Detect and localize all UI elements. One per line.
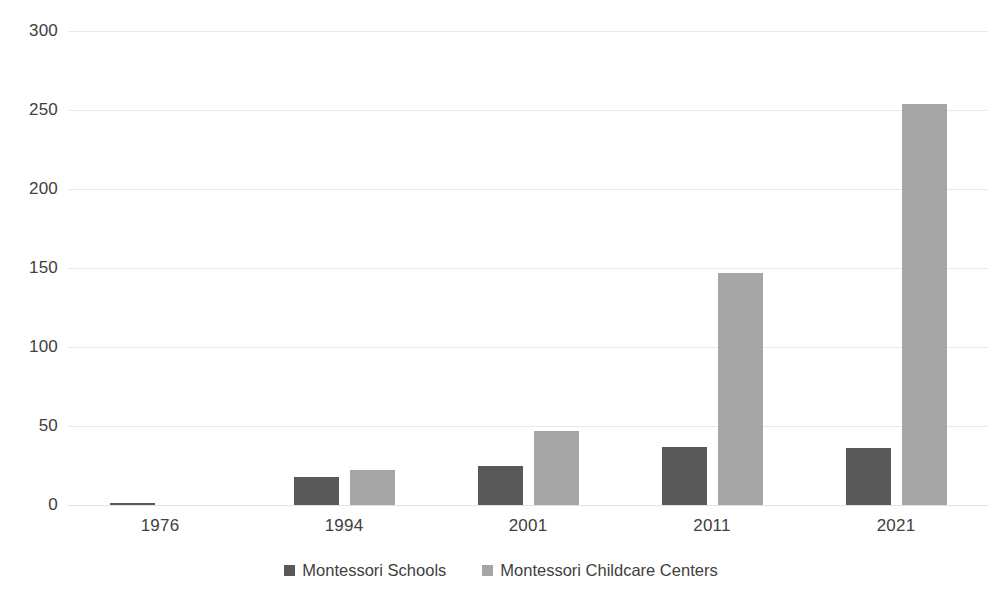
x-axis-tick-label-1994: 1994: [252, 516, 436, 536]
bar-group: [620, 31, 804, 505]
bar-2001-series-1[interactable]: [534, 431, 579, 505]
bar-1994-series-0[interactable]: [294, 477, 339, 505]
bar-group-bars: [252, 31, 436, 505]
bar-group: [252, 31, 436, 505]
gridline-0: [68, 505, 988, 506]
bar-group-bars: [620, 31, 804, 505]
legend-item-0[interactable]: Montessori Schools: [284, 562, 446, 579]
x-axis-labels: 19761994200120112021: [68, 516, 988, 546]
y-axis-tick-label: 300: [0, 21, 58, 41]
legend-label: Montessori Schools: [302, 562, 446, 579]
bar-group: [68, 31, 252, 505]
bar-group-bars: [436, 31, 620, 505]
y-axis-tick-label: 100: [0, 337, 58, 357]
bar-2001-series-0[interactable]: [478, 466, 523, 506]
y-axis-tick-label: 250: [0, 100, 58, 120]
legend-label: Montessori Childcare Centers: [500, 562, 717, 579]
plot-area: [68, 31, 988, 505]
x-axis-tick-label-2001: 2001: [436, 516, 620, 536]
bar-group-bars: [68, 31, 252, 505]
bar-2011-series-0[interactable]: [662, 447, 707, 505]
x-axis-tick-label-2021: 2021: [804, 516, 988, 536]
bar-chart: 050100150200250300 19761994200120112021 …: [0, 0, 1002, 610]
bar-group: [436, 31, 620, 505]
y-axis-tick-label: 50: [0, 416, 58, 436]
bar-1976-series-0[interactable]: [110, 503, 155, 505]
legend-swatch-icon: [284, 565, 295, 576]
bar-2011-series-1[interactable]: [718, 273, 763, 505]
x-axis-tick-label-1976: 1976: [68, 516, 252, 536]
y-axis-tick-label: 0: [0, 495, 58, 515]
bar-group: [804, 31, 988, 505]
x-axis-tick-label-2011: 2011: [620, 516, 804, 536]
legend-item-1[interactable]: Montessori Childcare Centers: [482, 562, 717, 579]
legend-swatch-icon: [482, 565, 493, 576]
y-axis-tick-label: 200: [0, 179, 58, 199]
chart-legend: Montessori SchoolsMontessori Childcare C…: [0, 562, 1002, 579]
y-axis-tick-label: 150: [0, 258, 58, 278]
bar-2021-series-0[interactable]: [846, 448, 891, 505]
bar-1994-series-1[interactable]: [350, 470, 395, 505]
bar-2021-series-1[interactable]: [902, 104, 947, 505]
bar-group-bars: [804, 31, 988, 505]
y-axis-labels: 050100150200250300: [0, 0, 58, 610]
